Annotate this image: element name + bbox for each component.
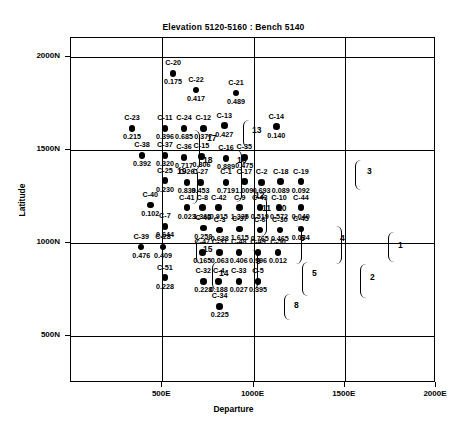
data-point-value: 0.225 [201, 310, 239, 319]
cluster-id-label: 3 [367, 166, 372, 176]
y-tick-mark [65, 149, 70, 150]
x-tick-mark [435, 382, 436, 387]
data-point-marker [184, 204, 191, 211]
x-tick-label: 1000E [228, 389, 278, 398]
cluster-bracket [290, 226, 302, 264]
cluster-id-label: 17 [207, 133, 216, 143]
data-point-marker [197, 179, 204, 186]
data-point-marker [273, 123, 280, 130]
cluster-bracket [243, 120, 255, 148]
cluster-bracket [355, 160, 367, 190]
data-point-label: C-7 [148, 211, 182, 220]
x-axis-label: Departure [0, 404, 467, 414]
data-point-label: C-44 [284, 193, 318, 202]
data-point-marker [199, 204, 206, 211]
cluster-bracket [253, 196, 267, 236]
y-tick-label: 500N [10, 330, 60, 339]
grid-line-horizontal [71, 336, 434, 337]
cluster-bracket [196, 238, 208, 264]
data-point-value: 0.395 [239, 285, 277, 294]
data-point-marker [216, 303, 223, 310]
cluster-bracket [360, 264, 372, 298]
data-point-label: C-28 [146, 232, 180, 241]
data-point-label: C-22 [179, 75, 213, 84]
scatter-plot-figure: Elevation 5120-5160 : Bench 5140 Departu… [0, 0, 467, 448]
data-point-marker [162, 152, 169, 159]
data-point-marker [236, 249, 243, 256]
cluster-bracket [228, 150, 242, 202]
cluster-bracket [186, 168, 198, 204]
y-tick-mark [65, 335, 70, 336]
cluster-bracket [302, 262, 314, 296]
y-tick-label: 2000N [10, 51, 60, 60]
data-point-value: 0.409 [144, 251, 182, 260]
cluster-id-label: 10 [277, 203, 286, 213]
data-point-label: C-21 [219, 78, 253, 87]
data-point-marker [236, 204, 243, 211]
data-point-marker [162, 223, 169, 230]
cluster-bracket [330, 226, 342, 264]
y-tick-mark [65, 56, 70, 57]
data-point-marker [162, 274, 169, 281]
cluster-bracket [388, 232, 400, 262]
data-point-marker [139, 152, 146, 159]
data-point-marker [275, 249, 282, 256]
cluster-bracket [186, 130, 200, 170]
data-point-marker [298, 178, 305, 185]
x-tick-label: 500E [136, 389, 186, 398]
data-point-label: C-19 [284, 167, 318, 176]
data-point-marker [200, 278, 207, 285]
data-point-label: C-13 [207, 111, 241, 120]
x-tick-mark [161, 382, 162, 387]
data-point-marker [170, 70, 177, 77]
y-tick-label: 1000N [10, 237, 60, 246]
x-tick-label: 2000E [410, 389, 460, 398]
data-point-label: C-40 [133, 190, 167, 199]
data-point-marker [298, 204, 305, 211]
data-point-marker [162, 125, 169, 132]
chart-title: Elevation 5120-5160 : Bench 5140 [0, 22, 467, 32]
data-point-marker [216, 249, 223, 256]
data-point-value: 0.228 [146, 282, 184, 291]
cluster-bracket [284, 294, 296, 320]
data-point-marker [277, 178, 284, 185]
cluster-bracket [246, 250, 258, 290]
x-tick-label: 1500E [319, 389, 369, 398]
data-point-marker [236, 278, 243, 285]
y-axis-label: Latitude [17, 160, 27, 240]
grid-line-horizontal [71, 57, 434, 58]
data-point-marker [147, 202, 154, 209]
data-point-label: C-20 [156, 58, 190, 67]
data-point-marker [129, 125, 136, 132]
data-point-marker [200, 225, 207, 232]
y-tick-mark [65, 242, 70, 243]
data-point-marker [162, 177, 169, 184]
data-point-label: C-45 [284, 214, 318, 223]
grid-line-vertical [345, 38, 346, 381]
y-tick-label: 1500N [10, 144, 60, 153]
x-tick-mark [344, 382, 345, 387]
data-point-value: 0.140 [257, 131, 295, 140]
data-point-label: C-34 [203, 291, 237, 300]
data-point-value: 0.417 [177, 94, 215, 103]
x-tick-mark [253, 382, 254, 387]
data-point-value: 0.489 [217, 97, 255, 106]
data-point-label: C-23 [115, 113, 149, 122]
cluster-bracket [212, 262, 224, 290]
cluster-id-label: 18 [203, 155, 212, 165]
data-point-marker [215, 204, 222, 211]
data-point-marker [221, 122, 228, 129]
data-point-label: C-51 [148, 263, 182, 272]
data-point-label: C-14 [259, 112, 293, 121]
